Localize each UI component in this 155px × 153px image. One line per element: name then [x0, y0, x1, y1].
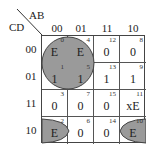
cell-value: E — [42, 127, 67, 139]
minterm-index: 5 — [87, 64, 91, 71]
cell-m9: 9 1 — [120, 63, 146, 90]
minterm-index: 7 — [87, 91, 91, 98]
column-header-00: 00 — [44, 23, 70, 34]
cell-value: 0 — [120, 46, 146, 58]
cell-m14: 14 0 — [94, 117, 120, 144]
cell-m1: 1 1 — [42, 63, 68, 90]
minterm-index: 4 — [87, 37, 91, 44]
cell-value: E — [68, 46, 93, 58]
minterm-index: 13 — [109, 64, 116, 71]
cell-value: xE — [120, 100, 146, 112]
cell-m10: 10 E — [120, 117, 146, 144]
column-header-01: 01 — [68, 23, 94, 34]
row-header-10: 10 — [22, 125, 40, 136]
cell-value: 0 — [94, 127, 119, 139]
cell-value: 0 — [68, 127, 93, 139]
minterm-index: 8 — [140, 37, 144, 44]
row-variables-label: CD — [9, 22, 24, 33]
cell-value: 0 — [94, 100, 119, 112]
column-header-10: 10 — [120, 23, 146, 34]
cell-m3: 3 0 — [42, 90, 68, 117]
cell-m0: 0 E — [42, 36, 68, 63]
minterm-index: 1 — [61, 64, 65, 71]
cell-value: E — [120, 127, 146, 139]
minterm-index: 9 — [140, 64, 144, 71]
cell-m15: 15 0 — [94, 90, 120, 117]
cell-m11: 11 xE — [120, 90, 146, 117]
minterm-index: 14 — [109, 118, 116, 125]
cell-value: E — [42, 46, 67, 58]
cell-value: 0 — [94, 46, 119, 58]
cell-value: 1 — [42, 73, 67, 85]
minterm-index: 11 — [136, 91, 143, 98]
cell-value: 0 — [68, 100, 93, 112]
kmap-grid: 0 E 4 E 12 0 8 0 1 1 5 1 13 1 9 1 — [41, 35, 145, 143]
minterm-index: 6 — [87, 118, 91, 125]
cell-m4: 4 E — [68, 36, 94, 63]
cell-m5: 5 1 — [68, 63, 94, 90]
column-variables-label: AB — [29, 10, 44, 21]
minterm-index: 15 — [109, 91, 116, 98]
cell-m13: 13 1 — [94, 63, 120, 90]
minterm-index: 0 — [61, 37, 65, 44]
cell-m2: 2 E — [42, 117, 68, 144]
cell-m7: 7 0 — [68, 90, 94, 117]
row-header-01: 01 — [22, 71, 40, 82]
karnaugh-map: AB CD 00 01 11 10 00 01 11 10 0 E 4 E 12… — [0, 0, 155, 153]
cell-value: 1 — [94, 73, 119, 85]
cell-value: 1 — [68, 73, 93, 85]
column-header-11: 11 — [94, 23, 120, 34]
cell-m8: 8 0 — [120, 36, 146, 63]
minterm-index: 10 — [136, 118, 143, 125]
cell-m6: 6 0 — [68, 117, 94, 144]
row-header-11: 11 — [22, 98, 40, 109]
cell-m12: 12 0 — [94, 36, 120, 63]
row-header-00: 00 — [22, 44, 40, 55]
minterm-index: 2 — [61, 118, 65, 125]
cell-value: 0 — [42, 100, 67, 112]
minterm-index: 12 — [109, 37, 116, 44]
cell-value: 1 — [120, 73, 146, 85]
minterm-index: 3 — [61, 91, 65, 98]
